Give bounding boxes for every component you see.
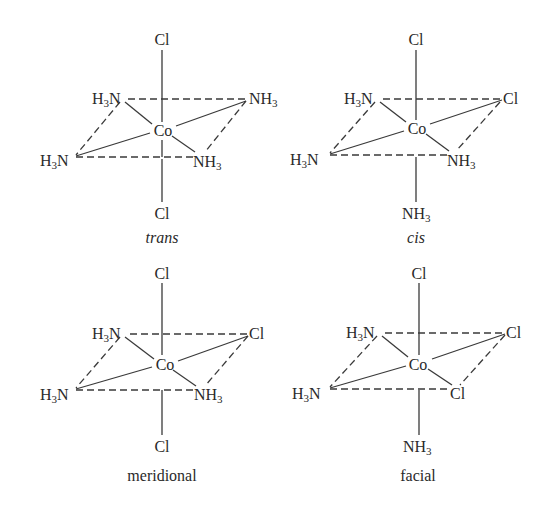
bond-front-left bbox=[76, 367, 152, 389]
dash-left-edge bbox=[76, 337, 120, 388]
panel-facial: Cl H3N Cl Co H3N Cl NH3 facial bbox=[292, 265, 522, 484]
dash-right-edge bbox=[460, 335, 505, 385]
ligand-front-right: Cl bbox=[450, 385, 466, 402]
caption-cis: cis bbox=[407, 229, 425, 246]
ligand-front-left: H3N bbox=[40, 152, 69, 171]
ligand-back-left: H3N bbox=[92, 90, 121, 109]
ligand-front-right: NH3 bbox=[193, 153, 222, 172]
ligand-back-right: Cl bbox=[506, 324, 522, 341]
ligand-front-left: H3N bbox=[40, 386, 69, 405]
ligand-top: Cl bbox=[408, 31, 424, 48]
ligand-bottom: Cl bbox=[154, 438, 170, 455]
ligand-back-left: H3N bbox=[344, 90, 373, 109]
caption-trans: trans bbox=[146, 229, 179, 246]
center-atom: Co bbox=[154, 122, 173, 139]
ligand-front-right: NH3 bbox=[447, 152, 476, 171]
bond-front-left bbox=[330, 131, 404, 154]
bond-front-left bbox=[330, 366, 406, 388]
caption-meridional: meridional bbox=[127, 467, 197, 484]
ligand-back-left: H3N bbox=[92, 325, 121, 344]
ligand-back-right: NH3 bbox=[249, 90, 278, 109]
ligand-top: Cl bbox=[154, 265, 170, 282]
bond-front-left bbox=[76, 133, 150, 156]
dash-left-edge bbox=[330, 336, 377, 387]
bond-front-right bbox=[428, 369, 452, 385]
bond-back-left bbox=[382, 336, 408, 357]
dash-left-edge bbox=[330, 102, 375, 153]
ligand-back-right: Cl bbox=[503, 90, 519, 107]
bond-back-left bbox=[125, 337, 154, 359]
ligand-bottom: NH3 bbox=[403, 438, 432, 457]
bond-back-left bbox=[380, 102, 406, 122]
ligand-top: Cl bbox=[154, 31, 170, 48]
center-atom: Co bbox=[156, 356, 175, 373]
ligand-back-right: Cl bbox=[249, 325, 265, 342]
ligand-top: Cl bbox=[411, 265, 427, 282]
bond-front-right bbox=[426, 134, 449, 151]
panel-trans: Cl H3N NH3 Co H3N NH3 Cl trans bbox=[40, 31, 278, 246]
ligand-front-left: H3N bbox=[290, 151, 319, 170]
bond-front-right bbox=[172, 136, 195, 152]
ligand-front-left: H3N bbox=[292, 385, 321, 404]
center-atom: Co bbox=[408, 120, 427, 137]
ligand-bottom: NH3 bbox=[402, 205, 431, 224]
bond-front-right bbox=[173, 370, 196, 386]
bond-back-left bbox=[125, 102, 152, 124]
caption-facial: facial bbox=[400, 467, 436, 484]
ligand-back-left: H3N bbox=[346, 324, 375, 343]
octahedral-isomers-diagram: Cl H3N NH3 Co H3N NH3 Cl trans Cl H3N Cl… bbox=[0, 0, 553, 515]
ligand-front-right: NH3 bbox=[194, 386, 223, 405]
center-atom: Co bbox=[409, 356, 428, 373]
dash-right-edge bbox=[457, 102, 500, 150]
dash-left-edge bbox=[76, 102, 120, 155]
panel-cis: Cl H3N Cl Co H3N NH3 NH3 cis bbox=[290, 31, 519, 246]
ligand-bottom: Cl bbox=[154, 205, 170, 222]
panel-meridional: Cl H3N Cl Co H3N NH3 Cl meridional bbox=[40, 265, 265, 484]
